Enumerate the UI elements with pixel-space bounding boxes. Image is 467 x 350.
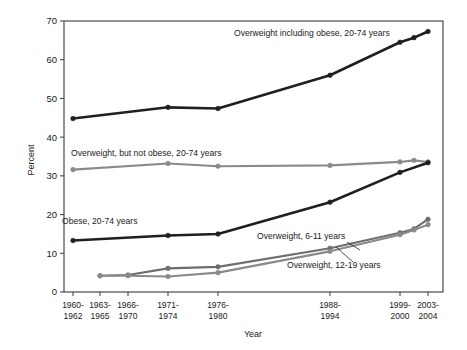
data-point [426,29,431,34]
y-tick-label-10: 10 [46,248,57,259]
data-point [328,73,333,78]
data-point [426,160,431,165]
data-point [328,200,333,205]
data-point [166,161,171,166]
x-tick-label-line2-6: 2000 [391,311,410,321]
data-point [166,274,171,279]
line-chart: 010203040506070 1960-19621963-19651966-1… [0,0,467,350]
data-point [98,273,103,278]
y-tick-label-30: 30 [46,170,57,181]
x-tick-label-line2-3: 1974 [159,311,178,321]
x-tick-label-line2-7: 2004 [419,311,438,321]
data-point [216,106,221,111]
annot-overweight-12-19: Overweight, 12-19 years [287,260,381,270]
data-point [412,35,417,40]
data-point [216,265,221,270]
x-tick-label-line2-2: 1970 [119,311,138,321]
y-tick-label-60: 60 [46,54,57,65]
x-tick-label-line2-5: 1994 [321,311,340,321]
annot-overweight-including-obese: Overweight including obese, 20-74 years [234,28,390,38]
x-tick-label-line2-0: 1962 [64,311,83,321]
data-point [166,105,171,110]
y-tick-label-50: 50 [46,93,57,104]
data-point [412,228,417,233]
x-tick-label-line1-4: 1976- [207,300,229,310]
data-point [166,266,171,271]
data-point [426,222,431,227]
data-point [426,217,431,222]
annot-overweight-6-11: Overweight, 6-11 years [257,231,345,241]
x-tick-label-line1-2: 1966- [117,300,139,310]
chart-figure: 010203040506070 1960-19621963-19651966-1… [0,0,467,350]
data-point [126,273,131,278]
x-tick-label-line2-1: 1965 [91,311,110,321]
data-point [398,40,403,45]
data-point [398,160,403,165]
data-point [328,163,333,168]
x-tick-label-line1-5: 1988- [319,300,341,310]
data-point [412,158,417,163]
data-point [216,164,221,169]
x-axis-title: Year [244,329,262,339]
annot-obese: Obese, 20-74 years [62,216,137,226]
y-tick-label-70: 70 [46,15,57,26]
y-tick-label-20: 20 [46,209,57,220]
x-tick-label-line1-6: 1999- [389,300,411,310]
data-point [398,170,403,175]
data-point [71,238,76,243]
data-point [328,249,333,254]
data-point [216,232,221,237]
y-tick-label-0: 0 [52,286,57,297]
x-tick-label-line1-7: 2003- [417,300,439,310]
x-tick-label-line1-0: 1960- [62,300,84,310]
data-point [71,116,76,121]
data-point [216,270,221,275]
y-tick-label-40: 40 [46,132,57,143]
annot-overweight-not-obese: Overweight, but not obese, 20-74 years [71,148,221,158]
y-axis-title: Percent [26,144,36,176]
x-tick-label-line2-4: 1980 [209,311,228,321]
x-tick-label-line1-3: 1971- [157,300,179,310]
data-point [71,167,76,172]
data-point [166,233,171,238]
x-tick-label-line1-1: 1963- [89,300,111,310]
data-point [398,232,403,237]
